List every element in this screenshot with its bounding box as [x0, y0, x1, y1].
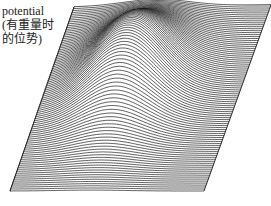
potential-surface-plot — [0, 0, 271, 206]
